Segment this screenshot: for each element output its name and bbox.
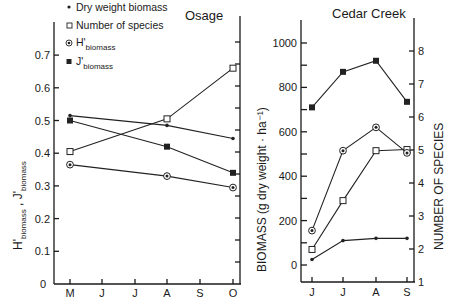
x-tick-label: A xyxy=(163,287,171,299)
open-square-marker-icon xyxy=(309,246,315,252)
open-square-marker-icon xyxy=(340,198,346,204)
y2-tick-label: 6 xyxy=(418,111,424,123)
y-tick-label: 0.3 xyxy=(35,180,50,192)
circled-dot-center-icon xyxy=(166,175,169,178)
y-tick-label: 400 xyxy=(279,170,297,182)
circled-dot-center-icon xyxy=(406,151,409,154)
dot-marker-icon xyxy=(341,239,345,243)
open-square-marker-icon xyxy=(373,148,379,154)
dot-marker-icon xyxy=(374,237,378,241)
series-line xyxy=(70,121,233,173)
circled-dot-center-icon xyxy=(375,126,378,129)
circled-dot-center-icon xyxy=(69,163,72,166)
legend-label-h: H'biomass xyxy=(76,36,115,52)
osage-right-ticks xyxy=(235,42,240,262)
y-tick-label: 0.2 xyxy=(35,213,50,225)
y-tick-label: 0.5 xyxy=(35,115,50,127)
dot-marker-icon xyxy=(405,237,409,241)
circled-dot-center-icon xyxy=(342,149,345,152)
y-tick-label: 600 xyxy=(279,126,297,138)
filled-square-marker-icon xyxy=(373,58,379,64)
y-tick-label: 1000 xyxy=(273,37,297,49)
legend-filled-square-icon xyxy=(67,59,72,64)
y-tick-label: 200 xyxy=(279,215,297,227)
y-tick-label: 0 xyxy=(291,259,297,271)
x-tick-label: S xyxy=(196,287,203,299)
series-line xyxy=(312,238,407,259)
filled-square-marker-icon xyxy=(309,104,315,110)
filled-square-marker-icon xyxy=(340,69,346,75)
y-tick-label: 0.7 xyxy=(35,49,50,61)
legend-label-j: J'biomass xyxy=(76,55,113,71)
dot-marker-icon xyxy=(68,114,72,118)
y2-tick-label: 3 xyxy=(418,210,424,222)
series-line xyxy=(312,150,407,250)
y2-tick-label: 4 xyxy=(418,177,424,189)
x-tick-label: J xyxy=(99,287,105,299)
y2-tick-label: 2 xyxy=(418,243,424,255)
legend: Dry weight biomass Number of species H'b… xyxy=(66,1,168,71)
y2-tick-label: 1 xyxy=(418,276,424,288)
y-tick-label: 0.4 xyxy=(35,147,50,159)
osage-series xyxy=(67,65,237,191)
open-square-marker-icon xyxy=(67,149,73,155)
series-line xyxy=(312,61,407,108)
dot-marker-icon xyxy=(165,124,169,128)
filled-square-marker-icon xyxy=(230,170,236,176)
cedar-y2-axis-title: NUMBER OF SPECIES xyxy=(432,123,446,250)
cedar-x-ticks: JJAS xyxy=(309,277,410,298)
y2-tick-label: 5 xyxy=(418,144,424,156)
y-tick-label: 0 xyxy=(40,278,46,290)
x-tick-label: O xyxy=(229,287,238,299)
x-tick-label: A xyxy=(372,286,380,298)
open-square-marker-icon xyxy=(230,65,236,71)
y-tick-label: 800 xyxy=(279,81,297,93)
dot-marker-icon xyxy=(231,137,235,141)
figure: Osage 00.10.20.30.40.50.60.7 MJJASO H'bi… xyxy=(0,0,454,306)
cedar-y-ticks: 02004006008001000 xyxy=(273,37,307,271)
dot-marker-icon xyxy=(310,258,314,262)
osage-x-ticks: MJJASO xyxy=(65,279,237,299)
x-tick-label: J xyxy=(309,286,315,298)
legend-circled-dot-center-icon xyxy=(68,42,71,45)
cedar-series xyxy=(309,58,411,261)
y-tick-label: 0.1 xyxy=(35,245,50,257)
x-tick-label: J xyxy=(340,286,346,298)
y-tick-label: 0.6 xyxy=(35,82,50,94)
x-tick-label: J xyxy=(132,287,138,299)
legend-open-square-icon xyxy=(67,23,72,28)
legend-label-species: Number of species xyxy=(76,19,164,31)
x-tick-label: M xyxy=(65,287,74,299)
series-line xyxy=(312,127,407,230)
osage-title: Osage xyxy=(185,8,223,23)
filled-square-marker-icon xyxy=(164,144,170,150)
series-line xyxy=(70,68,233,151)
cedar-y-axis-title: BIOMASS (g dry weight · ha⁻¹) xyxy=(255,107,269,272)
cedar-creek-title: Cedar Creek xyxy=(332,6,406,21)
cedar-creek-panel: Cedar Creek 02004006008001000 12345678 J… xyxy=(255,6,446,298)
circled-dot-center-icon xyxy=(232,186,235,189)
y2-tick-label: 7 xyxy=(418,78,424,90)
filled-square-marker-icon xyxy=(67,118,73,124)
cedar-y2-ticks: 12345678 xyxy=(409,45,424,288)
osage-y-axis-title: H'biomass , J'biomass xyxy=(11,161,28,250)
osage-panel: Osage 00.10.20.30.40.50.60.7 MJJASO H'bi… xyxy=(11,1,241,299)
circled-dot-center-icon xyxy=(311,229,314,232)
y2-tick-label: 8 xyxy=(418,45,424,57)
legend-label-dry-weight: Dry weight biomass xyxy=(76,1,168,13)
x-tick-label: S xyxy=(403,286,410,298)
osage-y-ticks: 00.10.20.30.40.50.60.7 xyxy=(35,49,59,290)
open-square-marker-icon xyxy=(164,116,170,122)
filled-square-marker-icon xyxy=(404,99,410,105)
series-line xyxy=(70,165,233,188)
legend-dot-icon xyxy=(67,5,70,8)
